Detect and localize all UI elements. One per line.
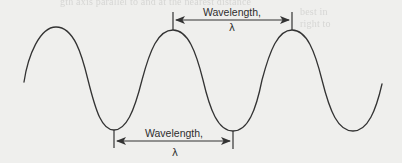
wavelength-diagram: gth axis parallel to and at the nearest … <box>0 0 402 163</box>
bottom-wavelength-label: Wavelength, <box>145 128 203 139</box>
sine-wave <box>24 27 382 131</box>
top-lambda-symbol: λ <box>229 23 235 33</box>
bottom-lambda-symbol: λ <box>172 148 178 158</box>
top-wavelength-label: Wavelength, <box>203 7 261 18</box>
